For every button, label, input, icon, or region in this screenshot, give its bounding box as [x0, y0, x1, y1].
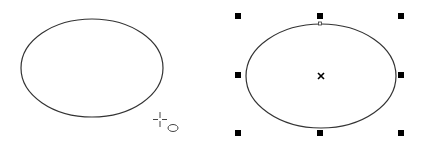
center-marker-icon[interactable] — [318, 73, 324, 79]
ellipse-node[interactable] — [319, 22, 322, 25]
drawing-canvas[interactable] — [0, 0, 421, 148]
handle-bottom-left[interactable] — [235, 130, 241, 136]
handle-top-left[interactable] — [235, 13, 241, 19]
handle-bottom-right[interactable] — [398, 130, 404, 136]
handle-bottom-center[interactable] — [317, 130, 323, 136]
handle-middle-left[interactable] — [235, 72, 241, 78]
ellipse-tool-cursor-icon — [153, 112, 178, 132]
drawn-ellipse[interactable] — [21, 19, 163, 117]
handle-top-right[interactable] — [398, 13, 404, 19]
handle-middle-right[interactable] — [398, 72, 404, 78]
handle-top-center[interactable] — [317, 13, 323, 19]
